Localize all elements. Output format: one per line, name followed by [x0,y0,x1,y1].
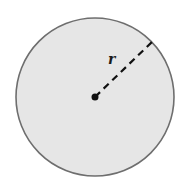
circle-diagram: r [0,0,191,195]
center-point [92,94,99,101]
